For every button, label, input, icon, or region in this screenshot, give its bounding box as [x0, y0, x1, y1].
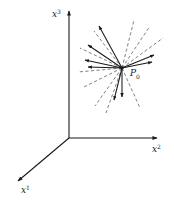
axes-group [18, 11, 157, 181]
axis-label-x1: x1 [21, 184, 30, 196]
point-p0-label: P0 [129, 68, 140, 80]
figure-container: x3 x2 x1 [0, 0, 174, 202]
axis-label-x3: x3 [52, 8, 61, 20]
dashed-line-8 [106, 68, 122, 113]
tangent-vector-1 [99, 26, 122, 68]
axis-x1-line [18, 138, 69, 181]
point-p0-group: P0 [120, 66, 140, 79]
tangent-vector-5 [122, 55, 154, 68]
point-p0-dot [120, 66, 123, 69]
dashed-line-3 [80, 48, 122, 68]
coordinate-system-diagram: x3 x2 x1 [0, 0, 174, 202]
axis-label-x2: x2 [152, 143, 161, 155]
point-p0-label-sub: 0 [136, 73, 140, 80]
tangent-vector-7 [114, 68, 122, 100]
tangent-vector-6 [122, 62, 152, 68]
axis-label-x1-sup: 1 [26, 184, 30, 191]
dashed-line-9 [95, 68, 122, 106]
axis-labels-group: x3 x2 x1 [21, 8, 161, 196]
dashed-line-6 [122, 26, 150, 68]
tangent-vectors-group [85, 26, 154, 100]
axis-label-x3-sup: 3 [57, 8, 61, 15]
axis-label-x2-sup: 2 [157, 143, 161, 150]
